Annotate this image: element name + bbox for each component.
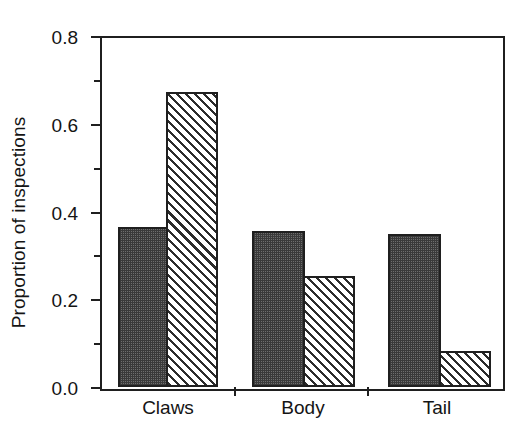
y-tick-0.4: 0.4 (91, 212, 100, 214)
y-tick-0.6: 0.6 (91, 124, 100, 126)
x-label-claws: Claws (142, 397, 194, 419)
y-tick-label-0.4: 0.4 (52, 203, 78, 225)
y-minor-tick-0.7 (94, 80, 100, 82)
chart-figure: Proportion of inspections 0.8 0.6 0.4 0.… (0, 0, 529, 445)
plot-area: 0.8 0.6 0.4 0.2 0.0 (100, 36, 501, 387)
y-minor-tick-0.5 (94, 168, 100, 170)
y-tick-label-0.6: 0.6 (52, 115, 78, 137)
bar-claws-series-1 (118, 227, 170, 387)
bar-tail-series-1 (388, 234, 441, 387)
y-tick-label-0.2: 0.2 (52, 290, 78, 312)
x-label-body: Body (281, 397, 324, 419)
x-tick-separator-1 (234, 387, 236, 396)
y-minor-tick-0.3 (94, 255, 100, 257)
bar-claws-series-2 (166, 92, 218, 387)
y-axis-title: Proportion of inspections (0, 0, 38, 445)
y-tick-0.8: 0.8 (91, 36, 100, 38)
x-tick-separator-2 (367, 387, 369, 396)
x-label-tail: Tail (423, 397, 452, 419)
y-tick-0.0: 0.0 (91, 387, 100, 389)
y-tick-label-0.0: 0.0 (52, 378, 78, 400)
y-tick-0.2: 0.2 (91, 299, 100, 301)
y-minor-tick-0.1 (94, 343, 100, 345)
bar-body-series-1 (252, 231, 305, 387)
bar-tail-series-2 (439, 351, 491, 387)
bar-body-series-2 (303, 276, 355, 387)
y-tick-label-0.8: 0.8 (52, 27, 78, 49)
